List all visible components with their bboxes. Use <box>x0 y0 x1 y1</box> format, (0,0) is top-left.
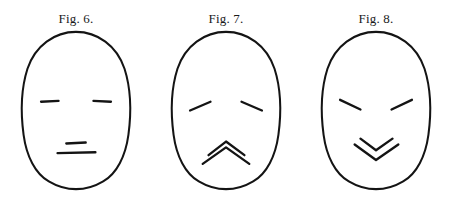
face-outline-neutral <box>22 32 131 189</box>
right-eyebrow-icon <box>242 102 262 111</box>
mouth-upper-chevron-icon <box>360 139 392 151</box>
figure-fig-7: Fig. 7. <box>150 0 302 201</box>
figure-plate: Fig. 6. Fig. 7. Fig. 8. <box>0 0 457 201</box>
figure-caption: Fig. 6. <box>0 11 152 27</box>
mouth-stroke-icon <box>58 152 96 153</box>
left-eyebrow-icon <box>190 102 210 111</box>
face-diagram-happy <box>300 28 452 193</box>
left-eyebrow-icon <box>41 101 58 102</box>
figure-fig-8: Fig. 8. <box>300 0 452 201</box>
mouth-lower-chevron-icon <box>355 144 399 160</box>
figure-fig-6: Fig. 6. <box>0 0 152 201</box>
face-diagram-neutral <box>0 28 152 193</box>
left-eyebrow-icon <box>340 100 360 110</box>
figure-caption: Fig. 7. <box>150 11 302 27</box>
face-diagram-sad <box>150 28 302 193</box>
figure-caption: Fig. 8. <box>300 11 452 27</box>
right-eyebrow-icon <box>392 100 412 110</box>
face-outline-sad <box>172 32 281 189</box>
face-outline-happy <box>322 32 431 189</box>
nose-stroke-icon <box>66 143 85 144</box>
right-eyebrow-icon <box>93 101 110 102</box>
